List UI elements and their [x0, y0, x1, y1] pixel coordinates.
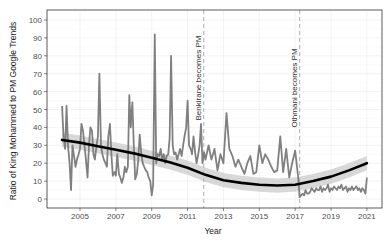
- y-tick-label: 20: [33, 159, 42, 168]
- x-tick-label: 2005: [71, 212, 89, 221]
- y-tick-label: 100: [29, 16, 43, 25]
- y-tick-label: 70: [33, 70, 42, 79]
- annotation-label: Othmani becomes PM: [290, 48, 299, 127]
- trend-chart: 0102030405060708090100 20052007200920112…: [0, 0, 390, 245]
- x-tick-label: 2009: [143, 212, 161, 221]
- y-tick-label: 0: [38, 195, 43, 204]
- annotation-label: Benkirane becomes PM: [194, 35, 203, 120]
- x-tick-label: 2017: [286, 212, 304, 221]
- y-tick-label: 40: [33, 123, 42, 132]
- y-tick-label: 90: [33, 34, 42, 43]
- y-tick-label: 10: [33, 177, 42, 186]
- x-tick-label: 2021: [358, 212, 376, 221]
- y-tick-label: 60: [33, 88, 42, 97]
- y-tick-label: 30: [33, 141, 42, 150]
- x-axis-title: Year: [204, 226, 221, 236]
- x-tick-label: 2019: [322, 212, 340, 221]
- x-tick-label: 2015: [250, 212, 268, 221]
- y-axis-title: Ratio of King Mohammed to PM Google Tren…: [8, 22, 18, 201]
- y-tick-label: 50: [33, 106, 42, 115]
- x-tick-label: 2011: [179, 212, 197, 221]
- x-tick-label: 2007: [107, 212, 125, 221]
- y-tick-label: 80: [33, 52, 42, 61]
- x-tick-label: 2013: [215, 212, 233, 221]
